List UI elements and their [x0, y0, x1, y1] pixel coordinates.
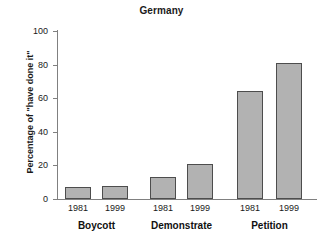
x-tick-label: 1999: [272, 203, 306, 213]
bar-chart: Germany Percentage of "have done it" 020…: [0, 0, 323, 246]
bar: [65, 187, 91, 199]
bar: [150, 177, 176, 199]
x-tick-label: 1981: [233, 203, 267, 213]
x-tick-label: 1999: [98, 203, 132, 213]
x-tick-label: 1981: [146, 203, 180, 213]
bar: [276, 63, 302, 199]
x-axis-line: [58, 199, 317, 200]
x-axis-group-label: Petition: [215, 220, 323, 231]
x-tick-label: 1999: [183, 203, 217, 213]
y-axis-label: Percentage of "have done it": [25, 22, 35, 202]
y-tick-label: 20: [8, 161, 48, 170]
y-tick-label: 60: [8, 94, 48, 103]
y-tick-mark: [53, 199, 58, 200]
y-tick-label: 40: [8, 128, 48, 137]
y-tick-label: 80: [8, 61, 48, 70]
bar: [102, 186, 128, 199]
x-tick-label: 1981: [61, 203, 95, 213]
bar: [237, 91, 263, 199]
plot-area: [58, 31, 317, 199]
y-tick-label: 100: [8, 27, 48, 36]
bar: [187, 164, 213, 199]
y-tick-label: 0: [8, 195, 48, 204]
chart-title: Germany: [0, 5, 323, 16]
